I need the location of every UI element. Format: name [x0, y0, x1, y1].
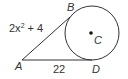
point-b-label: B	[67, 2, 74, 13]
segment-ad-label: 22	[53, 64, 65, 75]
point-c-label: C	[94, 35, 102, 46]
center-point	[89, 31, 93, 35]
point-a-label: A	[15, 61, 22, 72]
segment-ab-label: 2x2 + 4	[9, 23, 43, 34]
point-d-label: D	[92, 64, 100, 75]
